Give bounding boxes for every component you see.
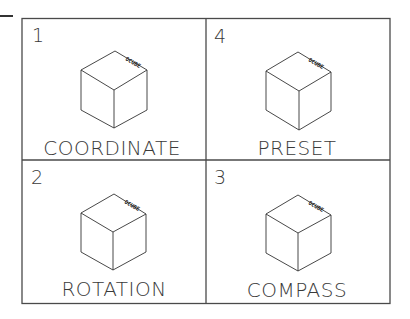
panel-coordinate: 1 OCUBE COORDINATE [32,24,181,160]
panel-number: 1 [32,24,44,46]
panel-number: 2 [31,166,43,188]
cube-icon: OCUBE [266,52,331,130]
cube-tag: OCUBE [124,199,141,212]
panel-label: ROTATION [61,277,166,301]
panel-rotation: 2 OCUBE ROTATION [31,166,167,301]
cube-tag: OCUBE [308,57,325,70]
cube-modes-diagram: 1 OCUBE COORDINATE 4 OCUBE PRESET 2 OCUB… [0,0,410,319]
panel-label: COMPASS [247,278,347,302]
cube-icon: OCUBE [81,51,147,128]
panel-number: 4 [214,25,226,47]
cube-tag: OCUBE [308,200,325,213]
cube-icon: OCUBE [266,195,331,271]
panel-label: PRESET [257,136,336,160]
panel-preset: 4 OCUBE PRESET [214,25,337,160]
panel-compass: 3 OCUBE COMPASS [214,166,347,302]
panel-label: COORDINATE [43,136,181,160]
panel-number: 3 [214,166,226,188]
cube-icon: OCUBE [81,194,146,270]
cube-tag: OCUBE [125,56,142,69]
